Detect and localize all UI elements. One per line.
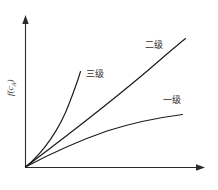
y-axis-label-subscript: A [10, 82, 17, 86]
y-axis-label: f(cA) [6, 65, 17, 111]
y-axis-label-function: f [5, 93, 15, 96]
y-axis-label-close-paren: ) [5, 79, 15, 82]
reaction-order-figure: f(cA) 三级 二级 一级 [0, 0, 218, 190]
curve-second-order [26, 39, 186, 168]
curve-label-second-order: 二级 [145, 41, 164, 50]
x-axis-arrowhead [196, 164, 205, 170]
y-axis-arrowhead [22, 15, 28, 24]
curve-label-first-order: 一级 [163, 96, 182, 105]
y-axis-label-open-paren: (c [5, 86, 15, 93]
plot-area [0, 0, 218, 190]
curve-label-third-order: 三级 [86, 70, 105, 79]
